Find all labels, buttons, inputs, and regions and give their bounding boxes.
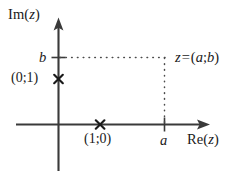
point-z-label: z=(a;b): [175, 50, 219, 65]
complex-plane-figure: Im(z) Re(z) b a (0;1) (1;0) z=(a;b): [0, 0, 244, 173]
point-z-real-part: a: [196, 49, 203, 65]
real-axis-label-paren-close: ): [214, 131, 219, 147]
figure-canvas: [0, 0, 244, 173]
imaginary-axis-label-prefix: Im: [8, 6, 24, 22]
point-z-variable: z: [175, 49, 181, 65]
real-axis-label: Re(z): [187, 132, 219, 147]
tick-a-label: a: [160, 133, 167, 148]
tick-b-label: b: [39, 50, 46, 65]
point-z-equals: =: [181, 49, 191, 65]
mark-unit-real-label: (1;0): [84, 132, 111, 146]
imaginary-axis-label: Im(z): [8, 7, 40, 22]
imaginary-axis-label-paren-close: ): [35, 6, 40, 22]
real-axis-label-prefix: Re: [187, 131, 203, 147]
mark-unit-imaginary-label: (0;1): [11, 71, 38, 85]
point-z-paren-close: ): [214, 49, 219, 65]
